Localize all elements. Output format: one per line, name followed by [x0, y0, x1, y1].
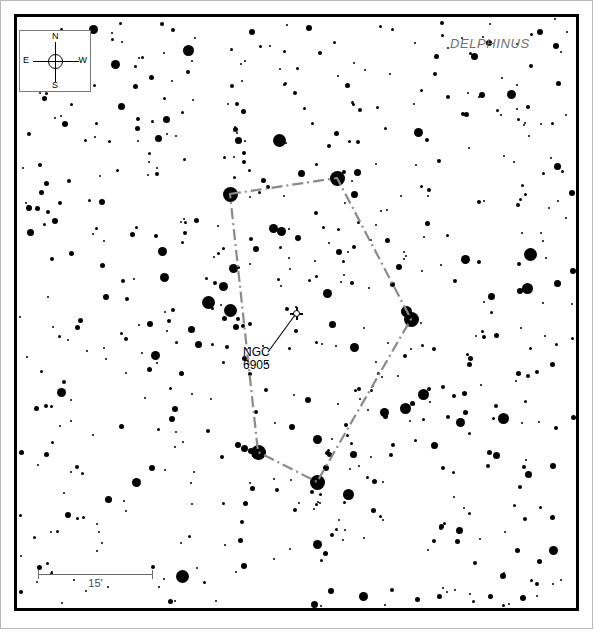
planetary-nebula-tick-bottom [296, 316, 298, 320]
compass-south-label: S [52, 81, 58, 90]
planetary-nebula-tick-left [290, 313, 294, 315]
scale-bar-label: 15' [38, 577, 153, 589]
planetary-nebula-tick-top [296, 307, 298, 311]
scale-bar-line [38, 574, 153, 575]
compass-north-label: N [52, 32, 59, 41]
planetary-nebula-icon [290, 307, 303, 320]
star-chart-figure: N S E W DELPHINUS NGC 6905 15' [0, 0, 595, 631]
constellation-polygon [230, 178, 411, 482]
dso-label-line2: 6905 [243, 359, 270, 372]
constellation-name-label: DELPHINUS [450, 36, 530, 51]
planetary-nebula-tick-right [299, 313, 303, 315]
compass-center-circle [48, 54, 63, 69]
compass-west-label: W [79, 56, 88, 65]
dso-leader-line [268, 315, 295, 352]
compass-east-label: E [23, 56, 29, 65]
compass-rose: N S E W [19, 30, 91, 92]
dso-label: NGC 6905 [243, 346, 270, 372]
scale-bar: 15' [38, 570, 153, 590]
